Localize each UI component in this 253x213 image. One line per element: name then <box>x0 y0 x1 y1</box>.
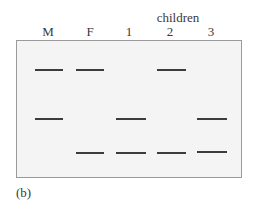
gel-box <box>16 40 242 178</box>
band-1-bottom <box>116 152 146 154</box>
lane-label-1: 1 <box>114 25 144 38</box>
band-f-top <box>76 69 104 71</box>
band-m-top <box>35 69 63 71</box>
lane-label-m: M <box>33 25 63 38</box>
band-3-bottom <box>197 151 227 153</box>
lane-label-f: F <box>75 25 105 38</box>
lane-label-3: 3 <box>196 25 226 38</box>
children-group-label: children <box>148 11 208 24</box>
band-1-middle <box>116 118 146 120</box>
band-3-middle <box>197 118 227 120</box>
band-f-bottom <box>76 152 104 154</box>
band-m-middle <box>35 118 63 120</box>
lane-label-2: 2 <box>155 25 185 38</box>
band-2-bottom <box>157 152 186 154</box>
figure-caption: (b) <box>16 185 31 201</box>
band-2-top <box>157 69 186 71</box>
